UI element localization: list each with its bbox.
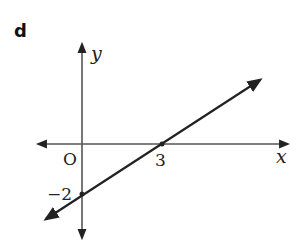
y-axis-label: y [90,42,102,64]
x-axis-label: x [276,145,287,167]
x-intercept-label: 3 [155,150,166,170]
line-graph: d y x O 3 −2 [0,0,298,248]
origin-label: O [63,149,77,169]
plotted-line [46,80,260,219]
part-label: d [14,20,27,41]
y-intercept-point [80,192,85,197]
x-intercept-point [160,142,165,147]
y-intercept-label: −2 [47,184,72,204]
